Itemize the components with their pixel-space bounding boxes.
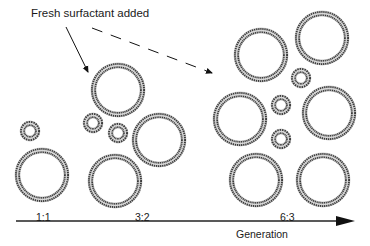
large-vesicle (305, 89, 354, 138)
diagram-canvas (0, 0, 370, 246)
large-vesicle (232, 156, 281, 205)
small-vesicle (23, 124, 38, 139)
diagram: Fresh surfactant added 1:1 3:2 6:3 Gener… (0, 0, 370, 246)
stage-ratio-3: 6:3 (280, 212, 295, 223)
fresh-surfactant-label: Fresh surfactant added (31, 8, 149, 20)
large-vesicle (237, 31, 286, 80)
large-vesicle (298, 14, 347, 63)
large-vesicle (216, 95, 265, 144)
small-vesicle (111, 126, 126, 141)
stage-ratio-1: 1:1 (36, 212, 51, 223)
vesicle-layer (18, 14, 354, 206)
small-vesicle (294, 71, 309, 86)
small-vesicle (274, 98, 289, 113)
surfactant-arrow-solid (66, 27, 88, 72)
small-vesicle (86, 116, 101, 131)
large-vesicle (299, 156, 348, 205)
axis-label-generation: Generation (236, 229, 288, 240)
large-vesicle (94, 66, 143, 115)
stage-ratio-2: 3:2 (135, 212, 150, 223)
large-vesicle (91, 157, 140, 206)
generation-axis-arrowhead-icon (336, 216, 355, 226)
large-vesicle (18, 151, 67, 200)
small-vesicle (274, 132, 289, 147)
large-vesicle (135, 116, 184, 165)
